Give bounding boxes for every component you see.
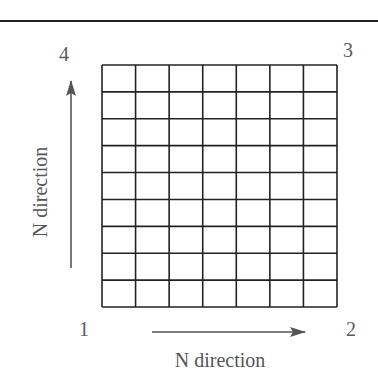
vertical-axis-label: N direction: [29, 147, 51, 238]
mesh-grid: [102, 65, 337, 307]
grid-diagram: [0, 0, 378, 391]
horizontal-axis-label: N direction: [150, 349, 290, 371]
